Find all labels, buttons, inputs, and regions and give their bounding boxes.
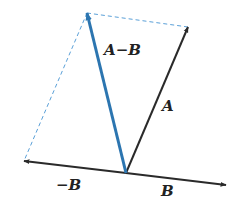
label-a: A — [160, 97, 174, 115]
vector-neg-b — [24, 161, 126, 173]
vector-diagram: A−B A −B B — [0, 0, 251, 209]
dashed-guide-top — [87, 13, 188, 27]
label-a-minus-b: A−B — [102, 41, 141, 59]
vector-b — [126, 173, 226, 185]
dashed-guide-left — [24, 13, 87, 161]
label-b: B — [160, 182, 174, 200]
vector-a-minus-b — [87, 13, 126, 173]
label-neg-b: −B — [56, 176, 81, 194]
